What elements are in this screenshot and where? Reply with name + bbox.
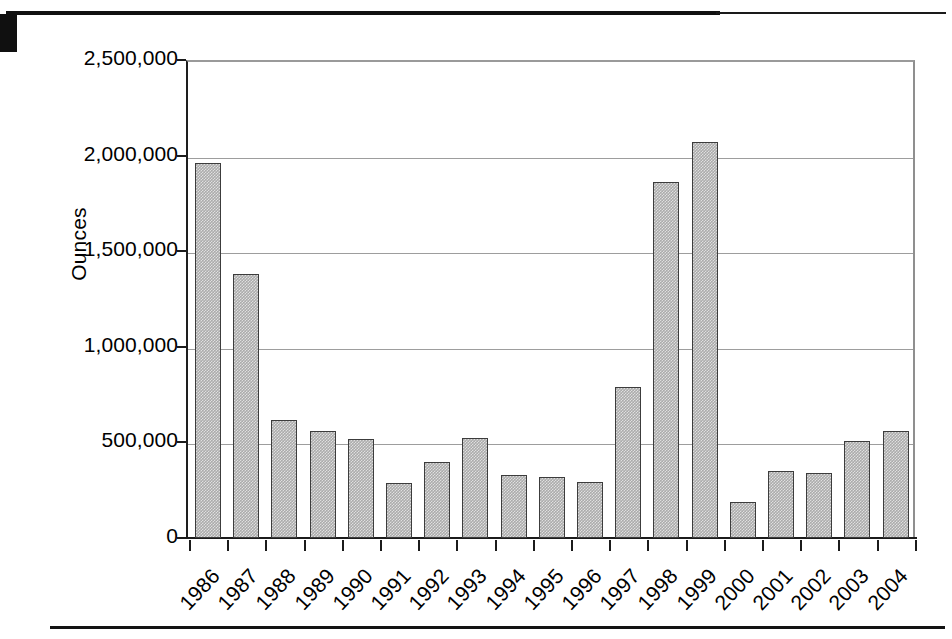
bar bbox=[844, 441, 870, 539]
y-axis-tick-mark bbox=[177, 59, 186, 61]
y-axis-tick-label: 1,500,000 bbox=[28, 237, 178, 261]
x-axis-tick-mark bbox=[800, 540, 802, 551]
bar bbox=[195, 163, 221, 538]
bar bbox=[424, 462, 450, 538]
y-axis-tick-mark bbox=[177, 441, 186, 443]
bar bbox=[730, 502, 756, 538]
x-axis-tick-mark bbox=[838, 540, 840, 551]
bar bbox=[348, 439, 374, 538]
y-axis-tick-label: 1,000,000 bbox=[28, 333, 178, 357]
bar-chart: Ounces 0500,0001,000,0001,500,0002,000,0… bbox=[0, 0, 952, 639]
x-axis-tick-mark bbox=[495, 540, 497, 551]
bar-series bbox=[186, 60, 917, 538]
x-axis-tick-mark bbox=[189, 540, 191, 551]
bar bbox=[615, 387, 641, 538]
y-axis-tick-mark bbox=[177, 346, 186, 348]
bar bbox=[386, 483, 412, 538]
bar bbox=[462, 438, 488, 538]
bar bbox=[577, 482, 603, 538]
bar bbox=[233, 274, 259, 538]
bar bbox=[271, 420, 297, 538]
x-axis-tick-mark bbox=[571, 540, 573, 551]
scanned-page: Ounces 0500,0001,000,0001,500,0002,000,0… bbox=[0, 0, 952, 639]
y-axis-tick-mark bbox=[177, 250, 186, 252]
bar bbox=[653, 182, 679, 538]
x-axis-tick-mark bbox=[265, 540, 267, 551]
x-axis-tick-mark bbox=[724, 540, 726, 551]
bar bbox=[501, 475, 527, 538]
x-axis-tick-mark bbox=[915, 540, 917, 551]
bar bbox=[310, 431, 336, 538]
y-axis-tick-label: 2,000,000 bbox=[28, 142, 178, 166]
x-axis-tick-mark bbox=[686, 540, 688, 551]
x-axis-tick-mark bbox=[533, 540, 535, 551]
x-axis-tick-mark bbox=[609, 540, 611, 551]
bar bbox=[692, 142, 718, 538]
x-axis-tick-mark bbox=[418, 540, 420, 551]
y-axis-tick-label: 0 bbox=[28, 524, 178, 548]
y-axis-tick-label: 500,000 bbox=[28, 428, 178, 452]
x-axis-tick-mark bbox=[304, 540, 306, 551]
x-axis-tick-mark bbox=[456, 540, 458, 551]
bar bbox=[806, 473, 832, 538]
x-axis-tick-mark bbox=[647, 540, 649, 551]
x-axis-tick-mark bbox=[762, 540, 764, 551]
x-axis-tick-mark bbox=[227, 540, 229, 551]
x-axis-tick-mark bbox=[380, 540, 382, 551]
bar bbox=[768, 471, 794, 538]
bar bbox=[883, 431, 909, 538]
y-axis-tick-mark bbox=[177, 155, 186, 157]
y-axis-tick-mark bbox=[177, 537, 186, 539]
x-axis-tick-mark bbox=[342, 540, 344, 551]
y-axis-tick-label: 2,500,000 bbox=[28, 46, 178, 70]
bar bbox=[539, 477, 565, 538]
x-axis-tick-mark bbox=[877, 540, 879, 551]
